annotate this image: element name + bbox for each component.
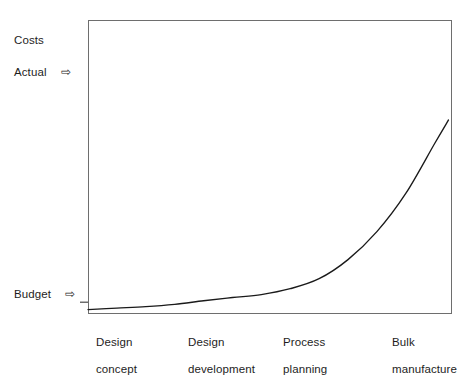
x-axis-label-design-development: Design development [188,322,255,379]
x-axis-label-line1: Design [96,336,137,350]
x-axis-label-line1: Process [283,336,327,350]
x-axis-label-line1: Bulk [392,336,457,350]
x-axis-labels: Design concept Design development Proces… [0,322,471,362]
x-axis-label-line2: concept [96,363,137,377]
x-axis-label-process-planning: Process planning [283,322,327,379]
x-axis-label-line2: planning [283,363,327,377]
x-axis-label-line2: development [188,363,255,377]
x-axis-label-bulk-manufacture: Bulk manufacture [392,322,457,379]
x-axis-label-design-concept: Design concept [96,322,137,379]
x-axis-label-line2: manufacture [392,363,457,377]
x-axis-label-line1: Design [188,336,255,350]
